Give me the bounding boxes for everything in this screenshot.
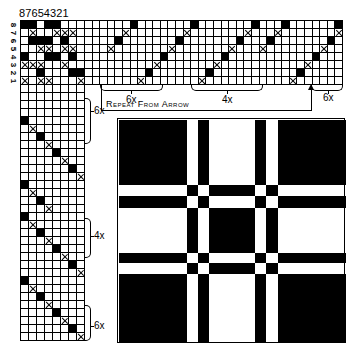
grid-cell xyxy=(222,29,229,36)
grid-cell xyxy=(244,77,251,84)
grid-cell xyxy=(45,229,52,236)
crossed-cell xyxy=(77,269,84,276)
grid-cell xyxy=(37,149,44,156)
grid-cell xyxy=(61,181,68,188)
grid-cell xyxy=(146,29,153,36)
grid-cell xyxy=(37,53,44,60)
grid-cell xyxy=(37,213,44,220)
grid-cell xyxy=(77,61,84,68)
fabric-block xyxy=(209,185,255,196)
grid-cell xyxy=(184,45,191,52)
grid-cell xyxy=(229,77,236,84)
grid-cell xyxy=(282,61,289,68)
crossed-cell xyxy=(108,45,115,52)
grid-cell xyxy=(328,69,335,76)
grid-cell xyxy=(37,101,44,108)
grid-cell xyxy=(45,93,52,100)
grid-cell xyxy=(61,101,68,108)
grid-cell xyxy=(153,21,160,28)
fabric-block xyxy=(209,263,255,274)
grid-cell xyxy=(37,221,44,228)
grid-cell xyxy=(100,61,107,68)
grid-cell xyxy=(290,21,297,28)
grid-cell xyxy=(222,37,229,44)
filled-cell xyxy=(146,69,153,76)
grid-cell xyxy=(37,309,44,316)
grid-cell xyxy=(93,21,100,28)
grid-cell xyxy=(21,165,28,172)
grid-cell xyxy=(21,37,28,44)
fabric-block xyxy=(198,274,209,343)
grid-cell xyxy=(37,325,44,332)
grid-cell xyxy=(45,173,52,180)
filled-cell xyxy=(131,21,138,28)
grid-cell xyxy=(29,173,36,180)
grid-cell xyxy=(115,21,122,28)
grid-cell xyxy=(168,61,175,68)
grid-cell xyxy=(37,85,44,92)
grid-cell xyxy=(290,69,297,76)
grid-cell xyxy=(21,229,28,236)
crossed-cell xyxy=(199,77,206,84)
filled-cell xyxy=(37,133,44,140)
grid-cell xyxy=(29,69,36,76)
grid-cell xyxy=(320,69,327,76)
grid-cell xyxy=(335,53,342,60)
grid-cell xyxy=(77,93,84,100)
grid-cell xyxy=(123,21,130,28)
grid-cell xyxy=(45,293,52,300)
grid-cell xyxy=(61,333,68,340)
grid-cell xyxy=(53,213,60,220)
grid-cell xyxy=(335,61,342,68)
grid-cell xyxy=(29,229,36,236)
grid-cell xyxy=(21,69,28,76)
grid-cell xyxy=(69,229,76,236)
grid-cell xyxy=(61,285,68,292)
filled-cell xyxy=(191,21,198,28)
grid-cell xyxy=(275,21,282,28)
grid-cell xyxy=(161,29,168,36)
filled-cell xyxy=(53,149,60,156)
grid-cell xyxy=(335,45,342,52)
crossed-cell xyxy=(45,77,52,84)
grid-cell xyxy=(222,77,229,84)
grid-cell xyxy=(146,61,153,68)
grid-cell xyxy=(61,269,68,276)
grid-cell xyxy=(260,77,267,84)
filled-cell xyxy=(69,53,76,60)
grid-cell xyxy=(29,53,36,60)
grid-cell xyxy=(77,85,84,92)
grid-cell xyxy=(21,157,28,164)
grid-cell xyxy=(77,101,84,108)
grid-cell xyxy=(69,253,76,260)
crossed-cell xyxy=(69,45,76,52)
grid-cell xyxy=(53,277,60,284)
grid-cell xyxy=(45,157,52,164)
filled-cell xyxy=(328,37,335,44)
grid-cell xyxy=(305,45,312,52)
grid-cell xyxy=(108,37,115,44)
grid-cell xyxy=(168,29,175,36)
grid-cell xyxy=(184,69,191,76)
crossed-cell xyxy=(21,61,28,68)
grid-cell xyxy=(77,45,84,52)
grid-cell xyxy=(21,101,28,108)
fabric-block xyxy=(255,120,266,185)
crossed-cell xyxy=(61,29,68,36)
grid-cell xyxy=(61,133,68,140)
grid-cell xyxy=(260,69,267,76)
grid-cell xyxy=(282,77,289,84)
grid-cell xyxy=(61,125,68,132)
crossed-cell xyxy=(45,45,52,52)
grid-cell xyxy=(199,45,206,52)
grid-cell xyxy=(69,101,76,108)
grid-cell xyxy=(267,21,274,28)
grid-cell xyxy=(77,37,84,44)
grid-cell xyxy=(45,117,52,124)
grid-cell xyxy=(85,53,92,60)
grid-cell xyxy=(37,157,44,164)
grid-cell xyxy=(115,61,122,68)
filled-cell xyxy=(69,69,76,76)
grid-cell xyxy=(153,77,160,84)
grid-cell xyxy=(77,149,84,156)
